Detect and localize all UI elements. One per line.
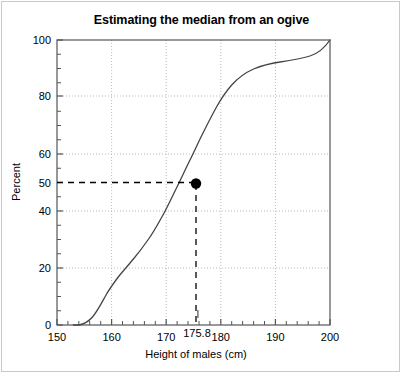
y-axis-tick-labels: 0 20 40 50 60 80 100 bbox=[33, 34, 51, 331]
median-point-marker bbox=[191, 178, 201, 188]
ogive-plot: 0 20 40 50 60 80 100 150 160 170 180 190… bbox=[0, 0, 403, 375]
y-tick-label: 0 bbox=[45, 319, 51, 331]
y-axis-title: Percent bbox=[10, 163, 22, 201]
x-tick-label: 180 bbox=[212, 331, 230, 343]
x-tick-label: 150 bbox=[48, 331, 66, 343]
x-tick-label: 160 bbox=[102, 331, 120, 343]
y-tick-label: 60 bbox=[39, 148, 51, 160]
y-tick-label: 100 bbox=[33, 34, 51, 46]
x-axis-tick-labels: 150 160 170 180 190 200 175.8 bbox=[48, 327, 339, 343]
x-axis-major-ticks bbox=[57, 319, 330, 325]
y-tick-label: 40 bbox=[39, 205, 51, 217]
y-tick-label: 20 bbox=[39, 262, 51, 274]
x-axis-title: Height of males (cm) bbox=[145, 348, 246, 360]
x-tick-label: 190 bbox=[266, 331, 284, 343]
x-tick-label: 170 bbox=[157, 331, 175, 343]
y-tick-label: 80 bbox=[39, 90, 51, 102]
y-tick-label: 50 bbox=[39, 177, 51, 189]
median-value-label: 175.8 bbox=[183, 327, 211, 339]
chart-figure: Estimating the median from an ogive bbox=[0, 0, 403, 375]
x-tick-label: 200 bbox=[321, 331, 339, 343]
median-guide-lines bbox=[57, 183, 196, 326]
